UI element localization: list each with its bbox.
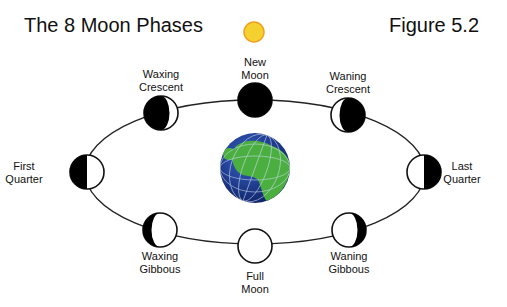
moon-new-moon	[238, 83, 272, 117]
label-full-moon: FullMoon	[225, 270, 285, 296]
label-line-1: Waxing	[131, 68, 191, 81]
label-line-2: Gibbous	[319, 263, 379, 276]
label-line-2: Moon	[225, 69, 285, 82]
label-first-quarter: FirstQuarter	[0, 160, 54, 186]
label-line-1: Last	[432, 160, 492, 173]
earth-globe	[220, 127, 290, 209]
moon-shadow	[70, 155, 87, 189]
sun-icon	[244, 22, 264, 42]
label-waxing-crescent: WaxingCrescent	[131, 68, 191, 94]
moon-waxing-crescent	[144, 96, 178, 130]
label-line-2: Quarter	[432, 173, 492, 186]
moon-waning-crescent	[331, 98, 365, 132]
label-line-2: Moon	[225, 283, 285, 296]
moon-full-moon	[238, 229, 272, 263]
label-line-2: Crescent	[318, 83, 378, 96]
label-new-moon: NewMoon	[225, 56, 285, 82]
moon-waxing-gibbous	[143, 213, 177, 247]
label-line-2: Gibbous	[130, 263, 190, 276]
label-line-2: Quarter	[0, 173, 54, 186]
label-line-1: Waxing	[130, 250, 190, 263]
label-line-1: Full	[225, 270, 285, 283]
moon-shadow	[238, 83, 272, 117]
label-line-2: Crescent	[131, 81, 191, 94]
label-last-quarter: LastQuarter	[432, 160, 492, 186]
moon-phase-diagram	[0, 0, 507, 307]
label-line-1: New	[225, 56, 285, 69]
label-waning-crescent: WaningCrescent	[318, 70, 378, 96]
label-waxing-gibbous: WaxingGibbous	[130, 250, 190, 276]
label-waning-gibbous: WaningGibbous	[319, 250, 379, 276]
moon-first-quarter	[70, 155, 104, 189]
label-line-1: First	[0, 160, 54, 173]
moon-waning-gibbous	[332, 213, 366, 247]
label-line-1: Waning	[318, 70, 378, 83]
moon-disc	[238, 229, 272, 263]
label-line-1: Waning	[319, 250, 379, 263]
